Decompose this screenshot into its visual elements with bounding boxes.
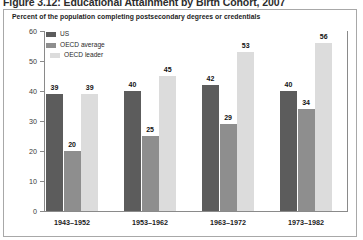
bar-value-label: 40 — [276, 81, 301, 88]
legend-label: US — [60, 30, 69, 37]
legend-label: OECD average — [60, 41, 105, 48]
y-axis-tick-label: 0 — [9, 207, 37, 216]
bar — [280, 91, 297, 211]
legend-swatch-icon — [50, 53, 60, 58]
y-axis-tick-label: 50 — [9, 57, 37, 66]
bar — [298, 109, 315, 211]
bar — [159, 76, 176, 211]
y-axis-tick — [40, 121, 44, 122]
legend-swatch-icon — [46, 43, 56, 48]
y-axis-tick — [40, 91, 44, 92]
bar — [315, 43, 332, 211]
bar — [142, 136, 159, 211]
y-axis-tick — [40, 61, 44, 62]
y-axis-tick-label: 60 — [9, 27, 37, 36]
bar-value-label: 40 — [120, 81, 145, 88]
figure-container: Figure 3.12: Educational Attainment by B… — [0, 0, 363, 240]
y-axis-tick — [40, 151, 44, 152]
bar — [124, 91, 141, 211]
bar — [81, 94, 98, 211]
bar-value-label: 45 — [155, 66, 180, 73]
bar — [237, 52, 254, 211]
bar — [64, 151, 81, 211]
y-axis-tick-label: 40 — [9, 87, 37, 96]
y-axis-tick — [40, 211, 44, 212]
bar-value-label: 42 — [198, 75, 223, 82]
y-axis-tick — [40, 31, 44, 32]
y-axis-tick-label: 10 — [9, 177, 37, 186]
legend-label: OECD leader — [64, 51, 103, 58]
y-axis-tick — [40, 181, 44, 182]
x-axis-category-label: 1953–1962 — [110, 218, 190, 227]
x-axis-category-label: 1963–1972 — [188, 218, 268, 227]
y-axis-tick-label: 30 — [9, 117, 37, 126]
x-axis-category-label: 1943–1952 — [32, 218, 112, 227]
y-axis-tick-label: 20 — [9, 147, 37, 156]
bar — [220, 124, 237, 211]
x-axis-category-label: 1973–1982 — [266, 218, 346, 227]
figure-title: Figure 3.12: Educational Attainment by B… — [3, 0, 285, 8]
y-axis-line — [44, 31, 45, 212]
plot-right-border — [347, 31, 348, 212]
bar-value-label: 56 — [311, 33, 336, 40]
bar-value-label: 39 — [42, 84, 67, 91]
legend-swatch-icon — [46, 32, 56, 37]
x-axis-line — [44, 211, 348, 212]
bar — [202, 85, 219, 211]
chart-subtitle: Percent of the population completing pos… — [12, 13, 260, 20]
bar — [46, 94, 63, 211]
bar-value-label: 53 — [233, 42, 258, 49]
bar-value-label: 39 — [77, 84, 102, 91]
